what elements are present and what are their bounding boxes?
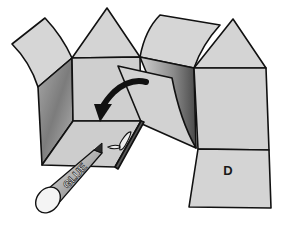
right-house-wall	[194, 68, 269, 150]
left-house-roof	[72, 8, 140, 58]
panel-d-label: D	[223, 163, 232, 178]
panel-d	[189, 149, 271, 208]
folding-box-diagram: D GLUE	[0, 0, 283, 230]
